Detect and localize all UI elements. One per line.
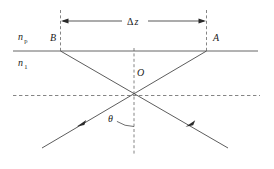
label-point-o: O [137, 67, 144, 78]
theta-angle-arc [117, 121, 134, 126]
label-angle-theta: θ [108, 113, 113, 124]
dimension-arrowhead-left [61, 18, 69, 23]
dimension-arrowhead-right [199, 18, 207, 23]
label-separation-variable: z [133, 16, 138, 27]
label-refractive-index-upper-subscript: p [24, 37, 27, 44]
arrowhead-right-ray [186, 120, 196, 127]
label-separation-delta: Δ [127, 16, 134, 27]
ray-diagram-figure: n p n 1 B A O θ Δ z [0, 0, 274, 169]
label-refractive-index-lower-subscript: 1 [24, 63, 27, 70]
label-refractive-index-lower-base: n [18, 57, 23, 68]
ray-a-downward-left [42, 51, 207, 148]
diagram-canvas: n p n 1 B A O θ Δ z [0, 0, 274, 169]
arrowhead-left-ray [77, 120, 86, 127]
label-point-b: B [50, 32, 56, 43]
label-point-a: A [212, 32, 220, 43]
ray-b-downward-right [61, 51, 229, 148]
label-refractive-index-upper-base: n [18, 31, 23, 42]
